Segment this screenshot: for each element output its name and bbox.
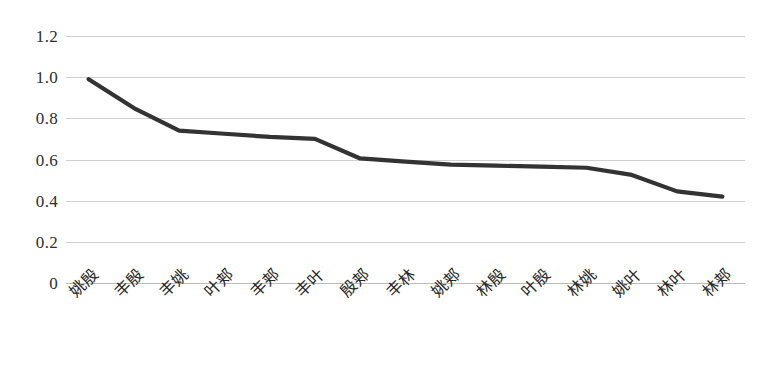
x-axis: 姚殷丰殷丰姚叶郏丰郏丰叶殷郏丰林姚郏林殷叶殷林姚姚叶林叶林郏 bbox=[66, 283, 745, 365]
line-chart: 1.21.00.80.60.40.20 姚殷丰殷丰姚叶郏丰郏丰叶殷郏丰林姚郏林殷… bbox=[0, 0, 772, 365]
y-axis-tick-label: 0.4 bbox=[0, 193, 58, 210]
y-axis-tick-label: 0.8 bbox=[0, 110, 58, 127]
y-axis-tick-label: 1.0 bbox=[0, 69, 58, 86]
y-axis: 1.21.00.80.60.40.20 bbox=[0, 0, 58, 365]
y-axis-tick-label: 1.2 bbox=[0, 28, 58, 45]
y-axis-tick-label: 0.6 bbox=[0, 152, 58, 169]
series-polyline bbox=[89, 79, 723, 196]
y-axis-tick-label: 0 bbox=[0, 275, 58, 292]
y-axis-tick-label: 0.2 bbox=[0, 234, 58, 251]
